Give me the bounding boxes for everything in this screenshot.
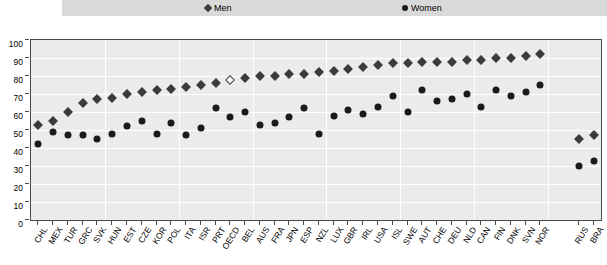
data-point-women-can bbox=[478, 103, 485, 110]
y-axis-tick-label: 100 bbox=[9, 39, 23, 49]
data-point-men-esp bbox=[299, 69, 309, 79]
chart-plot-wrapper: 0102030405060708090100 CHLMEXTURGRCSVKHU… bbox=[0, 34, 607, 265]
data-point-women-usa bbox=[375, 103, 382, 110]
data-point-men-rus bbox=[574, 134, 584, 144]
legend-item-men: Men bbox=[205, 1, 232, 15]
data-point-men-svk bbox=[92, 94, 102, 104]
y-axis-tick-label: 50 bbox=[14, 129, 23, 139]
data-point-women-nzl bbox=[315, 130, 322, 137]
data-point-men-cze bbox=[137, 87, 147, 97]
x-axis-label-hun: HUN bbox=[105, 225, 123, 246]
plot-area bbox=[30, 39, 602, 221]
x-axis-labels: CHLMEXTURGRCSVKHUNESTCZEKORPOLITAISRPRTO… bbox=[30, 225, 602, 265]
data-point-women-jpn bbox=[286, 114, 293, 121]
x-axis-label-nzl: NZL bbox=[313, 225, 330, 244]
data-point-men-pol bbox=[166, 84, 176, 94]
data-point-women-aus bbox=[256, 121, 263, 128]
y-axis-tick-label: 90 bbox=[14, 57, 23, 67]
gridline-horizontal bbox=[31, 94, 601, 95]
data-point-men-lux bbox=[329, 66, 339, 76]
data-point-women-bel bbox=[242, 109, 249, 116]
data-point-women-esp bbox=[301, 105, 308, 112]
y-axis-tick bbox=[25, 75, 29, 76]
data-point-women-lux bbox=[330, 112, 337, 119]
gridline-vertical bbox=[105, 40, 106, 220]
legend-label-women: Women bbox=[411, 1, 442, 15]
data-point-women-pol bbox=[168, 119, 175, 126]
gridline-vertical bbox=[548, 40, 549, 220]
circle-icon bbox=[402, 5, 408, 11]
data-point-women-ita bbox=[183, 132, 190, 139]
x-axis-label-ita: ITA bbox=[182, 225, 197, 241]
x-axis-label-est: EST bbox=[121, 225, 138, 244]
data-point-men-bel bbox=[240, 73, 250, 83]
data-point-men-dnk bbox=[506, 53, 516, 63]
data-point-women-grc bbox=[79, 132, 86, 139]
data-point-women-nld bbox=[463, 91, 470, 98]
x-axis-label-dnk: DNK bbox=[504, 225, 522, 246]
x-axis-label-can: CAN bbox=[475, 225, 493, 246]
gridline-vertical bbox=[326, 40, 327, 220]
data-point-men-bra bbox=[589, 130, 599, 140]
data-point-women-tur bbox=[64, 132, 71, 139]
gridline-horizontal bbox=[31, 202, 601, 203]
data-point-men-irl bbox=[358, 62, 368, 72]
x-axis-label-aut: AUT bbox=[416, 225, 433, 245]
data-point-women-oecd bbox=[227, 114, 234, 121]
x-axis-label-mex: MEX bbox=[46, 225, 64, 246]
x-axis-label-pol: POL bbox=[165, 225, 182, 245]
y-axis-tick bbox=[25, 201, 29, 202]
data-point-women-dnk bbox=[507, 92, 514, 99]
y-axis-tick-label: 60 bbox=[14, 111, 23, 121]
data-point-men-ita bbox=[181, 82, 191, 92]
data-point-men-nld bbox=[462, 55, 472, 65]
x-axis-label-nld: NLD bbox=[461, 225, 478, 245]
data-point-women-hun bbox=[109, 130, 116, 137]
gridline-vertical bbox=[253, 40, 254, 220]
x-axis-label-che: CHE bbox=[431, 225, 449, 246]
gridline-vertical bbox=[474, 40, 475, 220]
data-point-men-svn bbox=[521, 51, 531, 61]
y-axis-tick bbox=[25, 183, 29, 184]
data-point-women-isl bbox=[389, 92, 396, 99]
data-point-men-gbr bbox=[344, 64, 354, 74]
legend-label-men: Men bbox=[214, 1, 232, 15]
diamond-icon bbox=[204, 4, 212, 12]
data-point-men-prt bbox=[211, 78, 221, 88]
data-point-men-swe bbox=[403, 58, 413, 68]
y-axis-tick-label: 0 bbox=[18, 219, 23, 229]
data-point-men-usa bbox=[373, 60, 383, 70]
y-axis-tick-label: 40 bbox=[14, 147, 23, 157]
x-axis-label-usa: USA bbox=[372, 225, 390, 245]
x-axis-label-rus: RUS bbox=[572, 225, 590, 246]
y-axis-tick-label: 10 bbox=[14, 201, 23, 211]
y-axis-tick-label: 70 bbox=[14, 93, 23, 103]
y-axis-tick-label: 30 bbox=[14, 165, 23, 175]
data-point-men-can bbox=[476, 55, 486, 65]
data-point-women-chl bbox=[35, 141, 42, 148]
x-axis-label-kor: KOR bbox=[150, 225, 168, 246]
data-point-men-chl bbox=[33, 120, 43, 130]
data-point-men-jpn bbox=[284, 69, 294, 79]
data-point-men-isr bbox=[196, 80, 206, 90]
x-axis-label-jpn: JPN bbox=[284, 225, 301, 244]
data-point-women-gbr bbox=[345, 107, 352, 114]
data-point-women-prt bbox=[212, 105, 219, 112]
y-axis-tick bbox=[25, 93, 29, 94]
gridline-horizontal bbox=[31, 148, 601, 149]
data-point-men-fin bbox=[491, 53, 501, 63]
data-point-women-fra bbox=[271, 119, 278, 126]
data-point-women-deu bbox=[448, 96, 455, 103]
data-point-men-grc bbox=[78, 98, 88, 108]
gridline-horizontal bbox=[31, 166, 601, 167]
x-axis-label-deu: DEU bbox=[445, 225, 463, 246]
x-axis-label-esp: ESP bbox=[298, 225, 315, 245]
x-axis-label-cze: CZE bbox=[136, 225, 153, 245]
x-axis-label-aus: AUS bbox=[254, 225, 272, 245]
data-point-women-svk bbox=[94, 136, 101, 143]
gridline-horizontal bbox=[31, 76, 601, 77]
data-point-men-tur bbox=[63, 107, 73, 117]
data-point-women-svn bbox=[522, 89, 529, 96]
legend-item-women: Women bbox=[402, 1, 442, 15]
y-axis-tick bbox=[25, 39, 29, 40]
